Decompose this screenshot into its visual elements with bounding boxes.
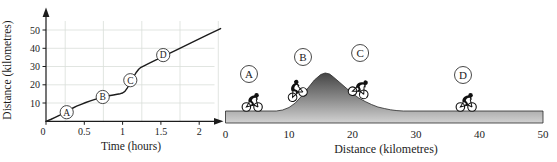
x-tick-label: 30	[411, 128, 423, 140]
cycling-figure: 00.511.521020304050 ABCD Distance (kilom…	[0, 0, 557, 162]
distance-time-graph: 00.511.521020304050 ABCD Distance (kilom…	[0, 0, 222, 162]
y-tick-label: 40	[30, 43, 40, 54]
cyclist-icon-D	[456, 93, 476, 111]
x-tick-label: 0	[223, 128, 229, 140]
point-letter-B: B	[299, 51, 306, 63]
x-tick-label: 0.5	[78, 126, 91, 137]
x-tick-label: 50	[538, 128, 550, 140]
point-letter-A: A	[63, 108, 70, 118]
y-tick-label: 50	[30, 25, 40, 36]
right-ticks: 01020304050	[223, 128, 549, 140]
point-letter-A: A	[245, 68, 253, 80]
y-tick-label: 30	[30, 61, 40, 72]
x-tick-label: 1.5	[155, 126, 168, 137]
left-gridlines	[46, 21, 218, 121]
left-point-labels: ABCD	[60, 49, 170, 119]
terrain-profile	[226, 73, 544, 123]
route-profile-diagram: ABCD 01020304050 Distance (kilometres)	[222, 0, 557, 162]
left-y-axis-label: Distance (kilometres)	[1, 20, 14, 119]
right-point-labels: ABCD	[241, 45, 472, 84]
right-x-axis-label: Distance (kilometres)	[334, 142, 438, 156]
x-tick-label: 40	[474, 128, 486, 140]
x-tick-label: 10	[284, 128, 296, 140]
point-letter-D: D	[160, 50, 167, 60]
left-ticks: 00.511.521020304050	[30, 25, 202, 137]
point-letter-C: C	[127, 76, 133, 86]
x-tick-label: 1	[120, 126, 125, 137]
y-tick-label: 10	[30, 98, 40, 109]
point-letter-D: D	[459, 69, 467, 81]
x-tick-label: 2	[197, 126, 202, 137]
cyclist-icon-A	[242, 93, 262, 111]
x-tick-label: 20	[347, 128, 359, 140]
point-letter-B: B	[100, 92, 106, 102]
x-tick-label: 0	[41, 126, 46, 137]
point-letter-C: C	[356, 47, 363, 59]
y-axis-arrow-icon	[43, 8, 50, 18]
left-x-axis-label: Time (hours)	[101, 140, 161, 153]
y-tick-label: 20	[30, 79, 40, 90]
